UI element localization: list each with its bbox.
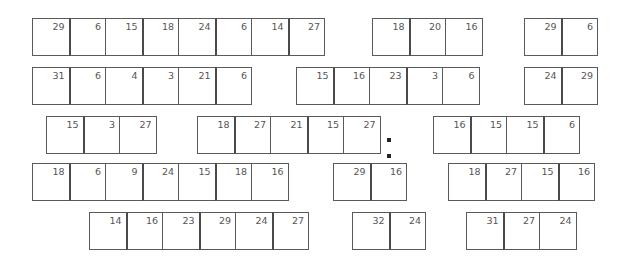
box-group: 18271516 [448, 163, 594, 201]
number-box[interactable]: 27 [234, 116, 272, 154]
box-number: 27 [505, 166, 517, 177]
number-box[interactable]: 18 [215, 163, 253, 201]
box-number: 15 [327, 119, 339, 130]
number-box[interactable]: 29 [199, 212, 237, 250]
number-box[interactable]: 31 [32, 67, 70, 105]
number-box[interactable]: 16 [433, 116, 471, 154]
number-box[interactable]: 24 [389, 212, 427, 250]
number-box[interactable]: 15 [307, 116, 345, 154]
box-number: 29 [544, 21, 556, 32]
number-box[interactable]: 21 [270, 116, 308, 154]
box-number: 29 [581, 70, 593, 81]
number-box[interactable]: 23 [162, 212, 200, 250]
box-number: 6 [241, 70, 247, 81]
number-box[interactable]: 18 [142, 18, 180, 56]
number-box[interactable]: 15 [506, 116, 544, 154]
number-box[interactable]: 27 [485, 163, 523, 201]
number-box[interactable]: 6 [561, 18, 599, 56]
box-number: 23 [389, 70, 401, 81]
number-box[interactable]: 29 [561, 67, 599, 105]
box-number: 15 [316, 70, 328, 81]
number-box[interactable]: 24 [524, 67, 562, 105]
number-box[interactable]: 6 [543, 116, 581, 154]
box-group: 2916 [333, 163, 406, 201]
number-box[interactable]: 29 [333, 163, 371, 201]
number-box[interactable]: 27 [503, 212, 541, 250]
box-number: 16 [453, 119, 465, 130]
number-box[interactable]: 6 [215, 67, 253, 105]
number-box[interactable]: 6 [215, 18, 253, 56]
box-number: 18 [392, 21, 404, 32]
box-number: 24 [162, 166, 174, 177]
number-box[interactable]: 15 [178, 163, 216, 201]
number-box[interactable]: 27 [288, 18, 326, 56]
number-box[interactable]: 3 [142, 67, 180, 105]
number-box[interactable]: 27 [119, 116, 157, 154]
box-number: 27 [139, 119, 151, 130]
number-box[interactable]: 29 [524, 18, 562, 56]
box-number: 6 [569, 119, 575, 130]
number-box[interactable]: 3 [83, 116, 121, 154]
number-box[interactable]: 14 [251, 18, 289, 56]
box-number: 29 [353, 166, 365, 177]
number-box[interactable]: 18 [372, 18, 410, 56]
number-box[interactable]: 24 [539, 212, 577, 250]
number-box[interactable]: 16 [251, 163, 289, 201]
box-group: 312724 [466, 212, 576, 250]
number-box[interactable]: 16 [370, 163, 408, 201]
box-number: 27 [308, 21, 320, 32]
number-box[interactable]: 14 [89, 212, 127, 250]
box-group: 29615182461427 [32, 18, 324, 56]
box-number: 15 [490, 119, 502, 130]
number-box[interactable]: 16 [333, 67, 371, 105]
box-number: 27 [292, 215, 304, 226]
number-box[interactable]: 15 [105, 18, 143, 56]
number-box[interactable]: 27 [272, 212, 310, 250]
number-box[interactable]: 21 [178, 67, 216, 105]
box-number: 15 [66, 119, 78, 130]
number-box[interactable]: 27 [343, 116, 381, 154]
number-box[interactable]: 16 [445, 18, 483, 56]
box-group: 141623292427 [89, 212, 308, 250]
box-number: 24 [198, 21, 210, 32]
number-box[interactable]: 16 [126, 212, 164, 250]
box-number: 16 [353, 70, 365, 81]
box-number: 16 [146, 215, 158, 226]
number-box[interactable]: 29 [32, 18, 70, 56]
number-box[interactable]: 23 [369, 67, 407, 105]
box-number: 6 [468, 70, 474, 81]
box-number: 18 [468, 166, 480, 177]
number-box[interactable]: 20 [409, 18, 447, 56]
box-group: 182016 [372, 18, 482, 56]
box-number: 18 [235, 166, 247, 177]
number-box[interactable]: 32 [352, 212, 390, 250]
number-box[interactable]: 15 [296, 67, 334, 105]
number-box[interactable]: 18 [448, 163, 486, 201]
number-box[interactable]: 15 [470, 116, 508, 154]
number-box[interactable]: 18 [197, 116, 235, 154]
number-box[interactable]: 24 [178, 18, 216, 56]
number-box[interactable]: 9 [105, 163, 143, 201]
box-number: 14 [109, 215, 121, 226]
number-box[interactable]: 24 [142, 163, 180, 201]
number-box[interactable]: 6 [69, 18, 107, 56]
number-box[interactable]: 15 [521, 163, 559, 201]
box-number: 3 [168, 70, 174, 81]
number-box[interactable]: 4 [105, 67, 143, 105]
number-box[interactable]: 18 [32, 163, 70, 201]
number-box[interactable]: 15 [46, 116, 84, 154]
number-box[interactable]: 6 [69, 163, 107, 201]
number-box[interactable]: 6 [69, 67, 107, 105]
box-number: 27 [254, 119, 266, 130]
box-number: 3 [432, 70, 438, 81]
number-box[interactable]: 6 [442, 67, 480, 105]
box-number: 16 [465, 21, 477, 32]
number-box[interactable]: 3 [406, 67, 444, 105]
box-number: 6 [95, 21, 101, 32]
box-number: 15 [198, 166, 210, 177]
box-number: 16 [390, 166, 402, 177]
number-box[interactable]: 31 [466, 212, 504, 250]
box-number: 18 [162, 21, 174, 32]
number-box[interactable]: 24 [235, 212, 273, 250]
number-box[interactable]: 16 [558, 163, 596, 201]
